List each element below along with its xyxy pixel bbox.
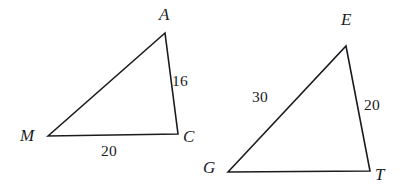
vertex-label-a: A xyxy=(159,6,170,23)
geometry-figure: A M C 16 20 E G T 30 20 xyxy=(0,0,404,193)
side-length-mc: 20 xyxy=(101,143,117,159)
vertex-label-t: T xyxy=(375,166,385,183)
vertex-label-g: G xyxy=(203,159,215,176)
vertex-label-c: C xyxy=(183,128,195,145)
side-length-ge: 30 xyxy=(252,89,268,105)
vertex-label-m: M xyxy=(20,127,34,144)
side-length-et: 20 xyxy=(364,97,380,113)
vertex-label-e: E xyxy=(341,11,352,28)
side-length-ac: 16 xyxy=(172,73,188,89)
